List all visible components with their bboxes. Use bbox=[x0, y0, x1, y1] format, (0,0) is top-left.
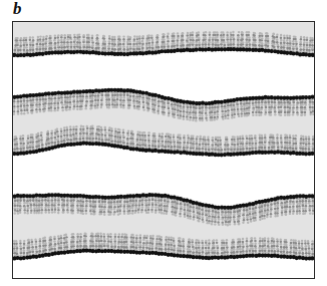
figure-frame bbox=[12, 21, 315, 279]
lipid-bilayer-simulation-canvas bbox=[13, 22, 314, 278]
panel-label: b bbox=[13, 0, 22, 19]
